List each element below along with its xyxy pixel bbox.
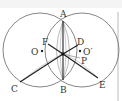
intersection-point [62,53,65,56]
top-band [0,0,122,8]
label-p: P [81,56,87,66]
label-a: A [59,9,67,19]
center-o-prime-dot [79,50,81,52]
geometry-figure: A B C D E F P O O′ [0,0,122,101]
label-d: D [77,37,84,47]
center-o-dot [41,50,43,52]
label-c: C [11,84,18,94]
diagram-canvas: A B C D E F P O O′ [0,0,122,101]
segment-cm [20,54,63,82]
label-b: B [60,85,67,95]
label-f: F [42,37,48,47]
label-o-prime: O′ [83,47,92,57]
label-e: E [99,80,106,90]
label-o: O [31,47,38,57]
segment-fm [48,44,63,54]
segment-md [63,45,78,54]
